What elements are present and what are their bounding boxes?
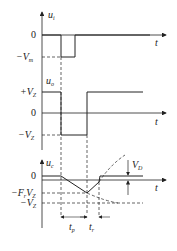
ui-t-label: t	[155, 37, 158, 48]
tp-label: tp	[69, 221, 75, 233]
uc-t-label: t	[155, 182, 158, 193]
uo-t-label: t	[155, 116, 158, 127]
vd-label: VD	[132, 159, 143, 171]
uc-axis-label: uc	[46, 157, 54, 169]
uc-discharge-asymptote	[87, 193, 118, 203]
ui-neg-vm-label: −Vm	[16, 51, 34, 63]
timing-diagram: ui t 0 −Vm uo t +VZ 0 −VZ uc t 0 −FrVZ −…	[0, 0, 177, 251]
capacitor-panel: uc t 0 −FrVZ −VZ VD tp tr	[11, 155, 166, 233]
ui-waveform	[42, 35, 150, 57]
uo-zero-label: 0	[31, 107, 36, 118]
ui-zero-label: 0	[31, 29, 36, 40]
uo-waveform	[42, 92, 143, 135]
uo-neg-vz-label: −VZ	[18, 129, 35, 141]
uo-pos-vz-label: +VZ	[20, 86, 37, 98]
input-panel: ui t 0 −Vm	[16, 9, 166, 80]
uc-zero-label: 0	[31, 170, 36, 181]
ui-axis-label: ui	[48, 9, 55, 21]
tr-label: tr	[89, 221, 95, 233]
output-panel: uo t +VZ 0 −VZ	[18, 75, 166, 150]
uo-axis-label: uo	[46, 75, 54, 87]
uc-charge-asymptote	[99, 155, 125, 182]
